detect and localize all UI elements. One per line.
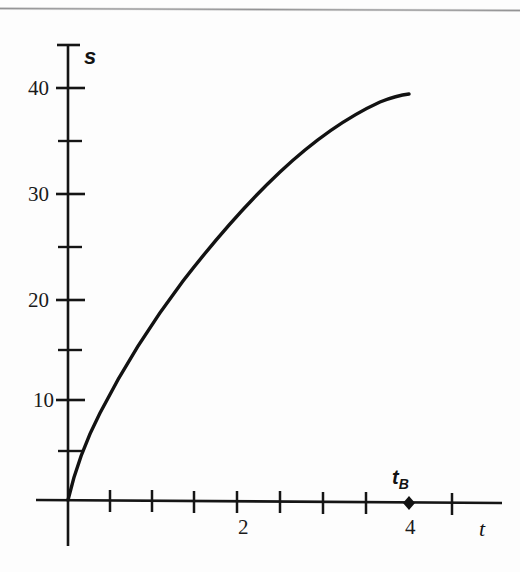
y-tick-label-10: 10 [33,388,54,413]
x-axis-line [36,500,502,503]
tb-annotation-subscript: B [399,476,409,492]
y-tick-label-40: 40 [28,76,49,101]
y-axis-label: s [84,44,96,70]
displacement-curve [68,94,409,500]
y-axis-minor-ticks [58,141,82,451]
x-axis-label: t [479,516,485,542]
x-tick-label-2: 2 [238,515,249,540]
tb-annotation-label: tB [392,466,409,492]
plot-canvas [0,0,520,572]
tb-annotation-base: t [392,466,399,488]
y-axis-major-ticks [56,88,85,400]
y-tick-label-20: 20 [28,288,49,313]
physics-graph-figure: s t tB 40 30 20 10 2 4 [0,0,520,572]
x-tick-label-4: 4 [405,515,416,540]
y-tick-label-30: 30 [28,182,49,207]
tb-marker-point [403,496,415,510]
